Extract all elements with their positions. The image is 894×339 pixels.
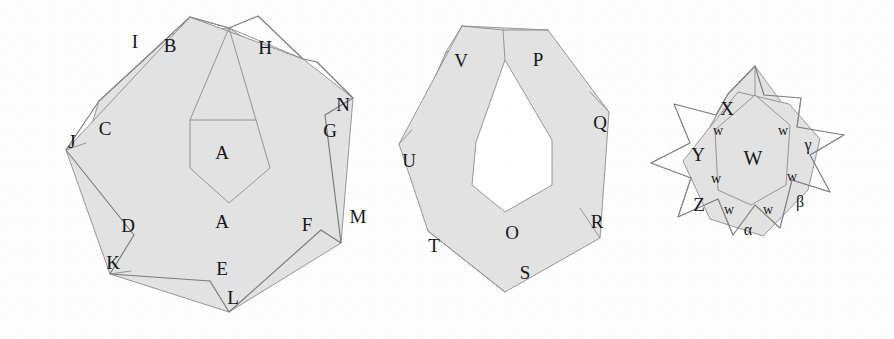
region-label-P: P [533,49,544,70]
region-label-D: D [121,215,135,236]
region-label-w: w [778,123,789,138]
region-label-Z: Z [693,194,705,215]
region-label-U: U [402,150,416,171]
region-label-C: C [99,118,112,139]
region-label-B: B [164,35,177,56]
region-label-K: K [106,252,120,273]
region-label-X: X [720,98,734,119]
region-label-O: O [505,222,519,243]
region-label-Y: Y [691,144,705,165]
region-label-w: w [724,202,735,217]
region-label-S: S [520,262,531,283]
region-label-w: w [711,171,722,186]
middle-figure: VPQUROTS [399,26,609,292]
region-label-H: H [258,37,272,58]
right-divider [678,178,691,217]
diagram-canvas: IBHNCJGAADFMKEL VPQUROTS [0,0,894,339]
region-label-F: F [302,214,313,235]
region-label-W: W [744,147,763,169]
region-label-N: N [336,94,350,115]
region-label-R: R [591,211,604,232]
region-label-A: A [215,142,229,163]
region-label-L: L [227,287,239,308]
region-label-α: α [744,221,753,238]
region-label-w: w [763,202,774,217]
right-figure: XwwγYWwwZwwβα [651,66,844,238]
figure-board: IBHNCJGAADFMKEL VPQUROTS [0,0,894,339]
region-label-J: J [68,131,75,152]
region-label-M: M [350,206,367,227]
region-label-β: β [796,193,804,211]
left-figure: IBHNCJGAADFMKEL [66,16,367,312]
region-label-γ: γ [803,136,811,154]
region-label-G: G [323,120,337,141]
region-label-Q: Q [593,112,607,133]
region-label-A: A [215,211,229,232]
region-label-T: T [428,235,440,256]
region-label-w: w [787,169,798,184]
region-label-I: I [132,31,138,52]
region-label-V: V [454,50,468,71]
region-label-w: w [713,123,724,138]
region-label-E: E [216,258,228,279]
